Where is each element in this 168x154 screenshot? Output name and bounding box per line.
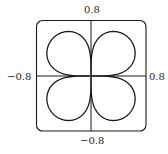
- x-max-label: 0.8: [149, 72, 165, 82]
- y-max-label: 0.8: [84, 5, 100, 15]
- x-min-label: −0.8: [7, 72, 31, 82]
- y-min-label: −0.8: [80, 136, 104, 146]
